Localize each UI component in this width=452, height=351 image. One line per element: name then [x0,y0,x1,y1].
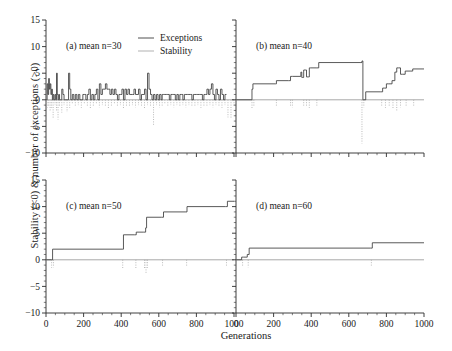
exceptions-step-line [236,243,424,260]
y-tick-label: 15 [31,175,41,185]
legend-label-exceptions: Exceptions [160,33,203,43]
panel-label: (d) mean n=60 [256,201,312,212]
panel-c: −10−505101502004006008001000(c) mean n=5… [25,175,244,329]
panel-b: (b) mean n=40 [232,20,424,157]
x-tick-label: 800 [189,319,204,329]
x-tick-label: 800 [379,319,394,329]
panel-label: (b) mean n=40 [256,41,312,52]
panel-label: (c) mean n=50 [66,201,122,212]
y-tick-label: 10 [31,202,41,212]
y-tick-label: 5 [35,68,40,78]
x-tick-label: 600 [152,319,167,329]
x-tick-label: 0 [234,319,239,329]
x-tick-label: 600 [342,319,357,329]
x-tick-label: 200 [76,319,91,329]
y-tick-label: −10 [25,308,40,318]
y-tick-label: 5 [35,228,40,238]
y-tick-label: −10 [25,148,40,158]
x-tick-label: 1000 [415,319,434,329]
y-tick-label: 0 [35,95,40,105]
exceptions-step-line [236,61,424,100]
y-tick-label: −5 [30,122,40,132]
panel-label: (a) mean n=30 [66,41,122,52]
y-tick-label: 10 [31,42,41,52]
y-tick-label: 0 [35,255,40,265]
y-tick-label: −5 [30,282,40,292]
x-tick-label: 400 [304,319,319,329]
legend: ExceptionsStability [138,33,203,56]
figure-container: Stability (<0) & number of exceptions (>… [0,0,452,351]
x-tick-label: 0 [44,319,49,329]
x-tick-label: 200 [266,319,281,329]
plot-svg: −10−5051015(a) mean n=30(b) mean n=40−10… [0,0,452,351]
y-tick-label: 15 [31,15,41,25]
panel-a: −10−5051015(a) mean n=30 [25,15,234,158]
x-tick-label: 400 [114,319,129,329]
legend-label-stability: Stability [160,46,192,56]
panel-d: 02004006008001000(d) mean n=60 [232,180,434,329]
exceptions-step-line [46,73,226,100]
